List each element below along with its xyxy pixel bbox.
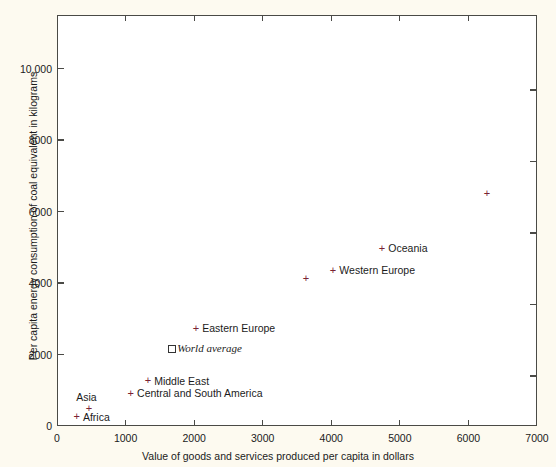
y-tick-right: [530, 161, 537, 162]
plus-marker-icon: +: [330, 265, 336, 276]
y-tick-label-10000: 10,000: [0, 63, 52, 75]
y-tick-right: [530, 375, 537, 376]
y-tick-6000: [57, 211, 64, 212]
x-tick-top-6000: [468, 15, 469, 21]
y-tick-label-6000: 6000: [0, 206, 52, 218]
y-tick-8000: [57, 139, 64, 140]
data-point-label: Asia: [76, 392, 96, 403]
x-tick-top-1000: [125, 15, 126, 21]
y-tick-right: [530, 304, 537, 305]
plus-marker-icon: +: [86, 403, 92, 414]
y-tick-label-2000: 2000: [0, 349, 52, 361]
square-marker-icon: [168, 345, 176, 353]
x-tick-top-3000: [262, 15, 263, 21]
x-tick-top-4000: [331, 15, 332, 21]
plus-marker-icon: +: [484, 188, 490, 199]
x-tick-3000: [262, 420, 263, 426]
x-tick-1000: [125, 420, 126, 426]
x-tick-label-3000: 3000: [233, 432, 293, 444]
data-point-label: Central and South America: [137, 388, 263, 399]
plus-marker-icon: +: [379, 243, 385, 254]
plus-marker-icon: +: [193, 323, 199, 334]
chart-root: 0100020003000400050006000700002000400060…: [0, 0, 556, 467]
x-tick-label-5000: 5000: [370, 432, 430, 444]
y-tick-label-0: 0: [0, 420, 52, 432]
x-tick-label-0: 0: [27, 432, 87, 444]
data-point-label: Oceania: [388, 243, 427, 254]
y-tick-label-4000: 4000: [0, 277, 52, 289]
data-point-label: Western Europe: [339, 265, 415, 276]
y-tick-right: [530, 232, 537, 233]
y-tick-right: [530, 89, 537, 90]
y-tick-2000: [57, 354, 64, 355]
x-tick-4000: [331, 420, 332, 426]
x-axis-title: Value of goods and services produced per…: [0, 450, 556, 462]
y-axis-title: Per capita energy consumption of coal eq…: [27, 16, 39, 416]
y-tick-4000: [57, 282, 64, 283]
data-point-label: Middle East: [154, 376, 209, 387]
x-tick-2000: [194, 420, 195, 426]
x-tick-label-4000: 4000: [301, 432, 361, 444]
plus-marker-icon: +: [303, 273, 309, 284]
data-point-label: World average: [177, 343, 242, 354]
x-tick-label-2000: 2000: [164, 432, 224, 444]
y-tick-10000: [57, 68, 64, 69]
x-tick-6000: [468, 420, 469, 426]
y-tick-label-8000: 8000: [0, 134, 52, 146]
x-tick-label-6000: 6000: [438, 432, 498, 444]
plus-marker-icon: +: [73, 411, 79, 422]
x-tick-5000: [399, 420, 400, 426]
x-tick-top-2000: [194, 15, 195, 21]
x-tick-label-1000: 1000: [96, 432, 156, 444]
x-tick-label-7000: 7000: [507, 432, 556, 444]
plot-frame: [57, 15, 537, 426]
x-tick-top-5000: [399, 15, 400, 21]
plus-marker-icon: +: [128, 388, 134, 399]
plus-marker-icon: +: [145, 375, 151, 386]
data-point-label: Eastern Europe: [202, 323, 275, 334]
